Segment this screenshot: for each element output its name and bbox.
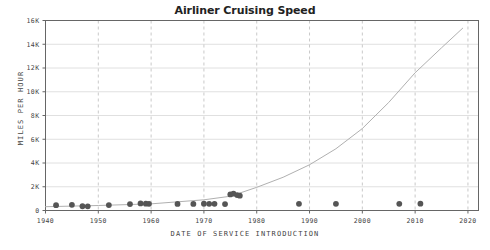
x-axis-tick-labels: 194019501960197019801990200020102020 xyxy=(37,211,477,225)
svg-text:2020: 2020 xyxy=(459,217,476,225)
trend-line-series xyxy=(46,28,463,206)
svg-text:10K: 10K xyxy=(27,88,40,96)
y-axis-label: MILES PER HOUR xyxy=(17,53,25,163)
chart-page: Airliner Cruising Speed 02K4K6K8K10K12K1… xyxy=(0,0,490,250)
svg-text:1960: 1960 xyxy=(142,217,159,225)
svg-text:1950: 1950 xyxy=(90,217,107,225)
svg-text:0: 0 xyxy=(35,207,39,215)
svg-text:1970: 1970 xyxy=(195,217,212,225)
chart-plot-area: 02K4K6K8K10K12K14K16K 194019501960197019… xyxy=(0,0,490,250)
svg-text:4K: 4K xyxy=(31,159,40,167)
svg-text:14K: 14K xyxy=(27,41,40,49)
svg-text:2K: 2K xyxy=(31,183,40,191)
svg-text:1940: 1940 xyxy=(37,217,54,225)
svg-text:16K: 16K xyxy=(27,17,40,25)
svg-text:1980: 1980 xyxy=(248,217,265,225)
svg-text:1990: 1990 xyxy=(301,217,318,225)
y-axis-tick-labels: 02K4K6K8K10K12K14K16K xyxy=(27,17,46,215)
svg-text:12K: 12K xyxy=(27,64,40,72)
svg-text:2010: 2010 xyxy=(407,217,424,225)
scatter-series xyxy=(53,191,423,210)
svg-text:8K: 8K xyxy=(31,112,40,120)
svg-text:2000: 2000 xyxy=(354,217,371,225)
svg-text:6K: 6K xyxy=(31,136,40,144)
x-axis-label: DATE OF SERVICE INTRODUCTION xyxy=(0,230,490,238)
horizontal-gridlines xyxy=(46,21,479,187)
